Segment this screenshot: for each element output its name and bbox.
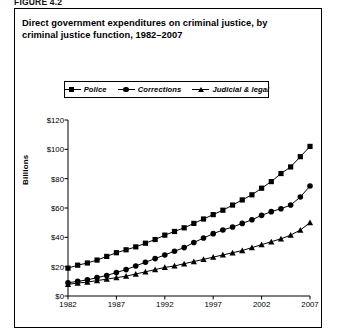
chart-title: Direct government expenditures on crimin… [22,17,302,41]
y-tick-100: $100 [47,145,64,154]
y-tick-40: $40 [51,233,64,242]
square-marker-icon [69,86,74,92]
plot-area [68,120,310,296]
y-axis-tick-labels: $120$100$80$60$40$20$0 [0,120,64,296]
circle-marker-icon [123,86,129,92]
legend-label-police: Police [84,85,107,94]
y-tick-80: $80 [51,174,64,183]
triangle-marker-icon [198,86,204,92]
legend-line-corrections [118,86,135,93]
figure-label: FIGURE 4.2 [14,0,62,7]
x-tick-2007: 2007 [301,300,318,309]
legend-line-police [64,86,81,93]
chart-svg [68,120,310,296]
series-markers-police [65,144,312,271]
chart-legend: Police Corrections Judicial & legal [64,81,269,98]
legend-line-judicial-legal [192,86,209,93]
x-tick-1997: 1997 [205,300,222,309]
x-tick-1987: 1987 [108,300,125,309]
y-tick-60: $60 [51,204,64,213]
chart-title-line-1: Direct government expenditures on crimin… [22,17,302,29]
x-tick-1992: 1992 [156,300,173,309]
y-tick-20: $20 [51,262,64,271]
x-axis-tick-labels: 198219871992199720022007 [68,300,310,314]
legend-item-judicial-legal: Judicial & legal [192,85,269,94]
chart-title-line-2: criminal justice function, 1982–2007 [22,29,302,41]
x-tick-2002: 2002 [253,300,270,309]
legend-label-corrections: Corrections [138,85,182,94]
legend-item-police: Police [64,85,107,94]
legend-label-judicial-legal: Judicial & legal [212,85,269,94]
series-markers-corrections [65,183,313,285]
x-tick-1982: 1982 [59,300,76,309]
y-tick-120: $120 [47,116,64,125]
legend-item-corrections: Corrections [118,85,182,94]
